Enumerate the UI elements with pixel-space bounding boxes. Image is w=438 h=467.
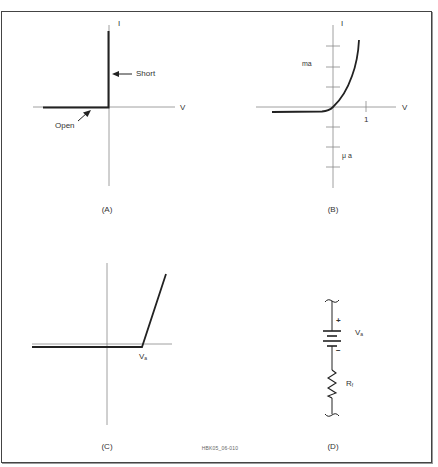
figure-id: HBK05_06-010 — [202, 445, 239, 451]
panel-a-i-label: I — [118, 20, 120, 28]
panel-c-knee-label: Va — [139, 353, 147, 361]
panel-a-ideal-curve — [43, 31, 109, 108]
panel-d-caption: (D) — [327, 443, 338, 451]
resistor-label: Rf — [346, 380, 353, 388]
panel-a-v-label: V — [180, 104, 185, 112]
panel-b-diode-curve — [272, 40, 359, 112]
short-arrowhead-icon — [112, 71, 119, 77]
panel-b-graph — [256, 25, 396, 188]
panel-b-ticks — [326, 46, 366, 167]
resistor-icon — [328, 370, 336, 398]
panel-c-caption: (C) — [101, 443, 112, 451]
panel-b-tick-1-label: 1 — [364, 116, 368, 124]
knee-label-sub: a — [144, 355, 147, 361]
short-label: Short — [136, 70, 155, 78]
panel-b-i-label: I — [341, 20, 343, 28]
panel-a-graph — [33, 25, 175, 186]
battery-label-sub: a — [360, 331, 363, 337]
panel-b-v-label: V — [402, 104, 407, 112]
panel-c-piecewise-curve — [32, 274, 166, 347]
battery-plus-label: + — [336, 317, 341, 325]
battery-minus-label: − — [336, 347, 341, 355]
panel-c-graph — [32, 263, 172, 425]
battery-voltage-label: Va — [355, 329, 363, 337]
panel-b-caption: (B) — [328, 206, 339, 214]
diagram-canvas — [0, 0, 438, 467]
resistor-label-sub: f — [352, 382, 353, 388]
bottom-terminal-icon — [325, 414, 339, 417]
panel-b-ua-label: μ a — [342, 152, 352, 159]
panel-b-ma-label: ma — [302, 60, 312, 67]
panel-a-caption: (A) — [102, 206, 113, 214]
open-label: Open — [55, 122, 75, 130]
